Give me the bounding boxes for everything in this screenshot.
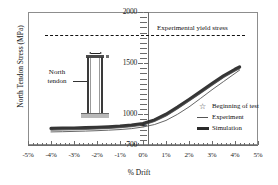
legend-item-experiment: Experiment xyxy=(196,112,272,123)
beginning-of-test-star-marker: ✴ xyxy=(140,121,147,130)
legend: ☆ Beginning of test Experiment Simulatio… xyxy=(196,101,272,134)
legend-label: Simulation xyxy=(212,124,242,131)
star-icon: ☆ xyxy=(196,101,210,112)
legend-label: Experiment xyxy=(212,113,244,120)
legend-item-simulation: Simulation xyxy=(196,123,272,134)
thick-bar-icon xyxy=(196,123,210,134)
legend-item-beginning-of-test: ☆ Beginning of test xyxy=(196,101,272,112)
data-curves: ✴ xyxy=(0,0,278,185)
thin-line-icon xyxy=(196,112,210,123)
chart-container: 700100015002000 -5%-4%-3%-2%-1%0%1%2%3%4… xyxy=(0,0,278,185)
legend-label: Beginning of test xyxy=(212,102,259,109)
